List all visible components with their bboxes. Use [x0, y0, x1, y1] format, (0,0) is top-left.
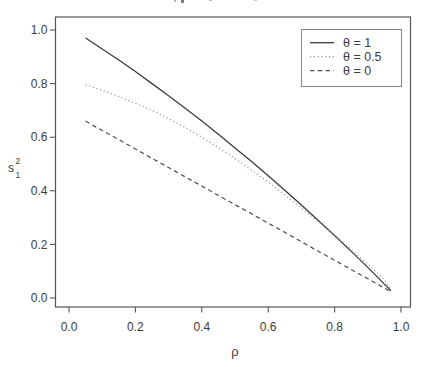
y-tick-label: 0.2	[31, 238, 48, 252]
legend-label: θ = 0.5	[343, 50, 382, 64]
x-tick-label: 0.2	[127, 320, 144, 334]
y-axis-label-subscript: 1	[16, 170, 21, 180]
y-tick-label: 1.0	[31, 23, 48, 37]
line-chart: 0.00.20.40.60.81.00.00.20.40.60.81.0ρs21…	[0, 0, 422, 367]
clipped-title-fragment	[181, 0, 184, 3]
y-axis-label-superscript: 2	[16, 156, 21, 166]
clipped-title-fragment	[174, 0, 176, 2]
x-axis-label: ρ	[231, 344, 238, 359]
y-axis-label-base: s	[8, 161, 14, 175]
y-tick-label: 0.4	[31, 184, 48, 198]
clipped-title-fragment	[254, 0, 257, 1]
figure: 0.00.20.40.60.81.00.00.20.40.60.81.0ρs21…	[0, 0, 422, 367]
x-tick-label: 0.0	[61, 320, 78, 334]
series-line-dashed	[86, 121, 391, 292]
x-tick-label: 0.6	[260, 320, 277, 334]
y-tick-label: 0.0	[31, 291, 48, 305]
y-tick-label: 0.8	[31, 77, 48, 91]
x-tick-label: 0.4	[193, 320, 210, 334]
y-tick-label: 0.6	[31, 130, 48, 144]
x-tick-label: 1.0	[393, 320, 410, 334]
series-line-dotted	[86, 85, 391, 290]
clipped-title-fragment	[209, 0, 212, 1]
legend-label: θ = 1	[343, 36, 371, 50]
x-tick-label: 0.8	[326, 320, 343, 334]
legend-label: θ = 0	[343, 64, 371, 78]
